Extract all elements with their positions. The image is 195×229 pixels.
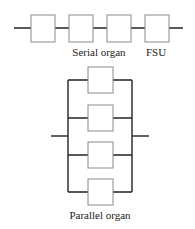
parallel-unit-4 bbox=[88, 179, 113, 205]
serial-unit-2 bbox=[69, 15, 93, 42]
parallel-organ: Parallel organ bbox=[51, 67, 149, 221]
serial-organ: Serial organ FSU bbox=[14, 15, 183, 58]
serial-unit-1 bbox=[31, 15, 55, 42]
serial-organ-label: Serial organ bbox=[72, 46, 126, 58]
parallel-unit-1 bbox=[88, 67, 113, 93]
parallel-unit-3 bbox=[88, 142, 113, 168]
serial-unit-3 bbox=[107, 15, 131, 42]
fsu-label: FSU bbox=[146, 46, 166, 58]
parallel-unit-2 bbox=[88, 105, 113, 131]
serial-unit-fsu bbox=[145, 15, 169, 42]
parallel-organ-label: Parallel organ bbox=[69, 209, 131, 221]
reliability-diagram: Serial organ FSU Parallel organ bbox=[0, 0, 195, 229]
